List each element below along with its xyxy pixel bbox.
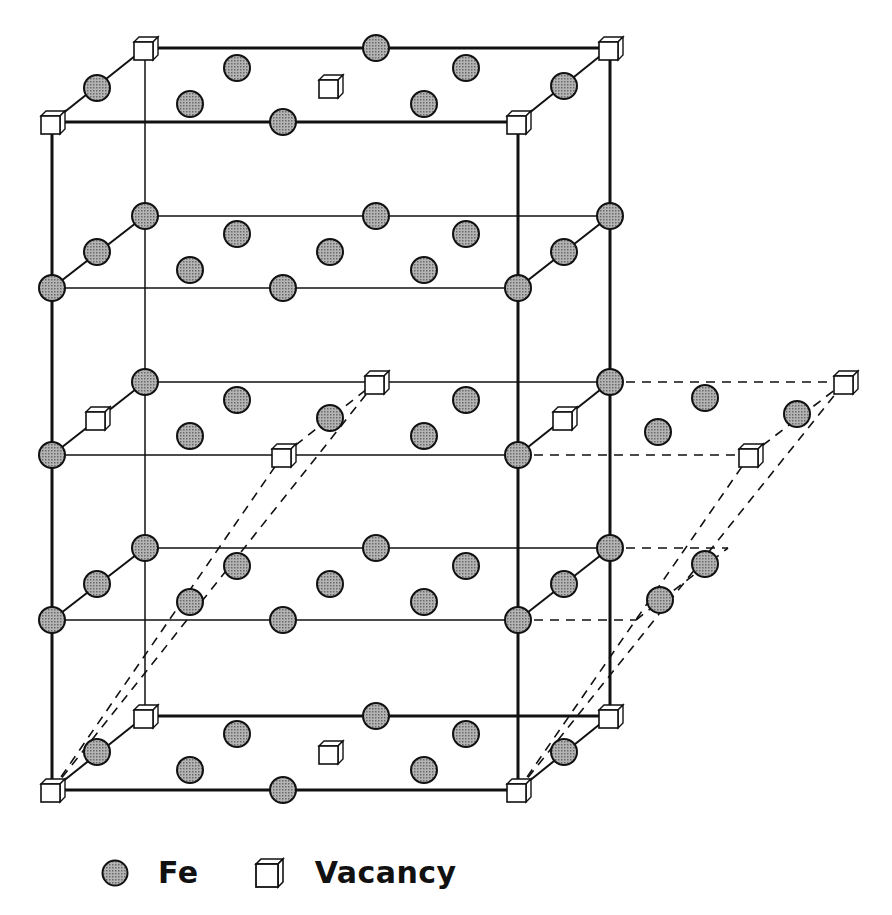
vacancy-cube — [365, 371, 389, 394]
fe-atom — [411, 589, 437, 615]
fe-atom — [551, 571, 577, 597]
fe-atom — [84, 571, 110, 597]
fe-atom — [132, 203, 158, 229]
vacancy-cube-icon — [253, 856, 287, 890]
fe-atom — [224, 553, 250, 579]
fe-atom — [270, 607, 296, 633]
fe-atom — [270, 777, 296, 803]
fe-atom — [647, 587, 673, 613]
legend-label-fe: Fe — [158, 855, 199, 890]
vacancy-cube — [319, 75, 343, 98]
vacancy-cube — [507, 779, 531, 802]
fe-atom — [39, 607, 65, 633]
fe-atom — [551, 239, 577, 265]
fe-atom — [505, 607, 531, 633]
vacancy-cube — [41, 111, 65, 134]
fe-atom — [224, 721, 250, 747]
fe-atom — [224, 55, 250, 81]
fe-atom — [692, 385, 718, 411]
fe-atom — [692, 551, 718, 577]
vacancy-cube — [86, 407, 110, 430]
fe-atom — [505, 275, 531, 301]
fe-atom — [453, 221, 479, 247]
fe-atom — [39, 442, 65, 468]
legend-item-vacancy: Vacancy — [253, 855, 457, 890]
fe-atom — [39, 275, 65, 301]
fe-atom — [551, 739, 577, 765]
legend-item-fe: Fe — [100, 855, 199, 890]
fe-atom — [645, 419, 671, 445]
legend-label-vacancy: Vacancy — [315, 855, 457, 890]
fe-atom — [363, 535, 389, 561]
fe-atom — [363, 703, 389, 729]
fe-atom — [453, 387, 479, 413]
vacancy-cube — [599, 37, 623, 60]
fe-atom — [132, 369, 158, 395]
fe-atom — [224, 221, 250, 247]
fe-atom — [270, 109, 296, 135]
vacancy-cube — [507, 111, 531, 134]
fe-atom — [551, 73, 577, 99]
fe-atom — [453, 55, 479, 81]
fe-atom — [132, 535, 158, 561]
fe-atom — [505, 442, 531, 468]
fe-atom — [270, 275, 296, 301]
fe-atom — [317, 571, 343, 597]
fe-atom — [411, 91, 437, 117]
vacancy-cube — [272, 444, 296, 467]
fe-atom — [411, 423, 437, 449]
vacancy-cube — [319, 741, 343, 764]
fe-atom — [411, 257, 437, 283]
vacancy-sites — [41, 37, 858, 802]
fe-atom — [84, 75, 110, 101]
fe-atoms — [39, 35, 810, 803]
vacancy-cube — [739, 444, 763, 467]
fe-atom — [177, 423, 203, 449]
fe-atom-icon — [100, 858, 130, 888]
vacancy-cube — [134, 705, 158, 728]
fe-atom — [597, 535, 623, 561]
fe-atom — [363, 35, 389, 61]
fe-atom — [597, 203, 623, 229]
fe-atom — [84, 739, 110, 765]
vacancy-cube — [599, 705, 623, 728]
fe-atom — [177, 257, 203, 283]
fe-atom — [411, 757, 437, 783]
fe-atom — [784, 401, 810, 427]
vacancy-cube — [553, 407, 577, 430]
crystal-lattice-diagram — [0, 0, 892, 915]
fe-atom — [453, 721, 479, 747]
fe-atom — [177, 757, 203, 783]
fe-atom — [84, 239, 110, 265]
vacancy-cube — [134, 37, 158, 60]
dashed-plane-lines — [52, 382, 845, 790]
fe-atom — [224, 387, 250, 413]
vacancy-cube — [41, 779, 65, 802]
fe-atom — [453, 553, 479, 579]
fe-atom — [317, 405, 343, 431]
fe-atom — [597, 369, 623, 395]
fe-atom — [317, 239, 343, 265]
vacancy-cube — [834, 371, 858, 394]
fe-atom — [177, 91, 203, 117]
fe-atom — [363, 203, 389, 229]
fe-atom — [177, 589, 203, 615]
legend: Fe Vacancy — [100, 855, 511, 890]
